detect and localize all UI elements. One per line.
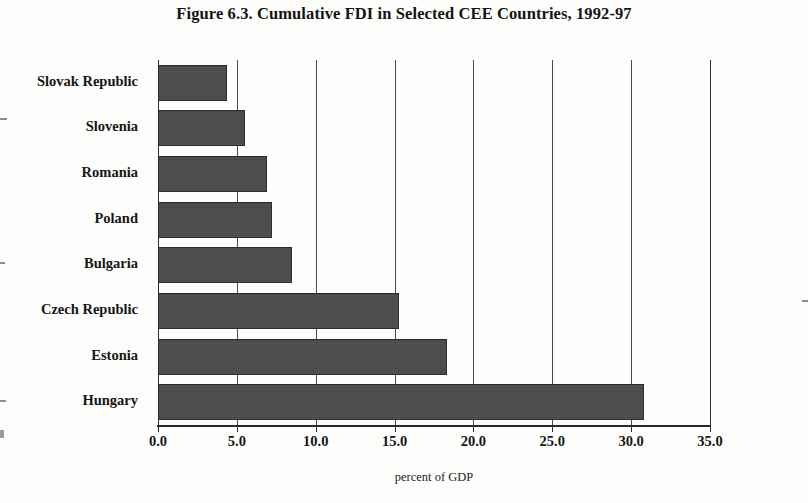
plot-area xyxy=(158,60,710,425)
figure-container: Figure 6.3. Cumulative FDI in Selected C… xyxy=(0,0,808,503)
x-axis-line xyxy=(157,425,711,427)
y-category-label: Hungary xyxy=(0,392,148,409)
x-tick-label: 0.0 xyxy=(128,433,188,450)
scan-artifact xyxy=(802,300,808,302)
x-tick-label: 15.0 xyxy=(365,433,425,450)
x-tick xyxy=(395,426,396,432)
bar-estonia xyxy=(158,339,447,375)
x-tick xyxy=(316,426,317,432)
bar-slovak-republic xyxy=(158,65,227,101)
x-tick xyxy=(631,426,632,432)
x-axis-label: percent of GDP xyxy=(158,470,710,485)
scan-artifact xyxy=(0,430,4,438)
x-tick xyxy=(710,426,711,432)
page-title: Figure 6.3. Cumulative FDI in Selected C… xyxy=(0,4,808,24)
x-tick xyxy=(473,426,474,432)
y-category-label: Slovenia xyxy=(0,118,148,135)
gridline-30-0 xyxy=(631,60,632,425)
x-tick-label: 10.0 xyxy=(286,433,346,450)
bar-poland xyxy=(158,202,272,238)
bar-czech-republic xyxy=(158,293,399,329)
x-tick-label: 25.0 xyxy=(522,433,582,450)
y-category-label: Slovak Republic xyxy=(0,73,148,90)
x-tick-label: 20.0 xyxy=(443,433,503,450)
x-tick-label: 30.0 xyxy=(601,433,661,450)
x-tick-label: 35.0 xyxy=(680,433,740,450)
y-category-label: Czech Republic xyxy=(0,301,148,318)
bar-romania xyxy=(158,156,267,192)
bar-bulgaria xyxy=(158,247,292,283)
gridline-20-0 xyxy=(473,60,474,425)
x-tick xyxy=(552,426,553,432)
y-category-label: Poland xyxy=(0,210,148,227)
gridline-35-0 xyxy=(710,60,711,425)
x-tick-label: 5.0 xyxy=(207,433,267,450)
gridline-25-0 xyxy=(552,60,553,425)
x-tick xyxy=(158,426,159,432)
y-category-label: Estonia xyxy=(0,347,148,364)
y-category-label: Bulgaria xyxy=(0,255,148,272)
bar-slovenia xyxy=(158,110,245,146)
x-tick xyxy=(237,426,238,432)
bar-hungary xyxy=(158,384,644,420)
y-category-label: Romania xyxy=(0,164,148,181)
